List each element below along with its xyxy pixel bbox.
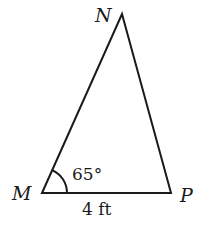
triangle-mnp [42,14,171,193]
vertex-label-m: M [11,182,32,204]
triangle-diagram: N M P 65° 4 ft [0,0,204,225]
angle-arc-m [53,170,67,193]
side-length-label-mp: 4 ft [82,199,112,219]
vertex-label-n: N [94,4,113,26]
triangle-figure: N M P 65° 4 ft [0,0,204,225]
angle-label-m: 65° [72,164,102,184]
vertex-label-p: P [179,184,194,206]
